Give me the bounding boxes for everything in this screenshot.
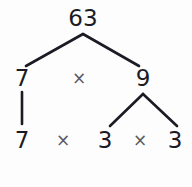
node-level1-right-9: 9 <box>136 67 151 90</box>
node-root-63: 63 <box>68 7 97 30</box>
multiply-icon-level1: × <box>72 70 86 87</box>
node-level1-left-7: 7 <box>15 67 30 90</box>
node-level2-first-7: 7 <box>15 129 30 152</box>
node-level2-third-3: 3 <box>168 129 183 152</box>
edge-9-to-3-right <box>143 94 177 126</box>
edge-9-to-3-left <box>110 94 143 126</box>
factor-tree-diagram: 63 7 × 9 7 × 3 × 3 <box>0 0 192 187</box>
multiply-icon-level2-first: × <box>56 132 70 149</box>
edge-63-to-7 <box>26 34 83 66</box>
edge-63-to-9 <box>83 34 139 66</box>
node-level2-second-3: 3 <box>98 129 113 152</box>
multiply-icon-level2-second: × <box>133 132 147 149</box>
